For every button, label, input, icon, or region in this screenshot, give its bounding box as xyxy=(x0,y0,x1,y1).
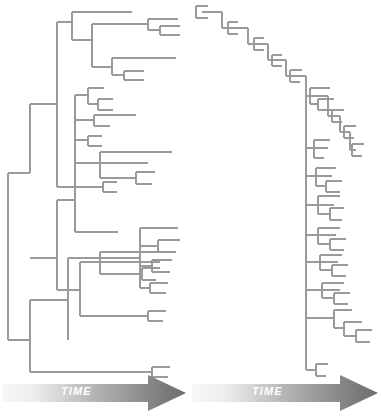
balanced-tree-graphic xyxy=(0,0,190,385)
time-axis-label-right: TIME xyxy=(252,385,283,397)
time-axis-label-left: TIME xyxy=(61,385,92,397)
time-arrow-right-graphic xyxy=(190,372,381,416)
balanced-tree-panel: TIME xyxy=(0,0,190,416)
time-arrow-left-graphic xyxy=(0,372,190,416)
ladder-tree-graphic xyxy=(190,0,381,385)
time-axis-right: TIME xyxy=(190,372,381,416)
phylogenetic-figure: TIME TIME xyxy=(0,0,381,416)
ladder-tree-panel: TIME xyxy=(190,0,381,416)
time-axis-left: TIME xyxy=(0,372,190,416)
